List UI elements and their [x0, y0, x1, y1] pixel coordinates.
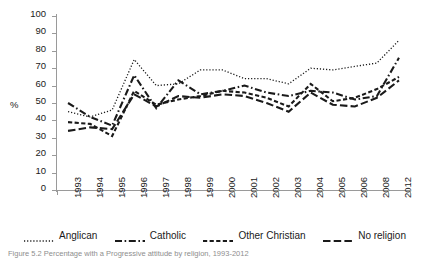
x-tick-label: 2003	[293, 177, 303, 198]
x-tick-mark	[101, 190, 102, 195]
y-tick-label: 50	[35, 96, 46, 106]
y-tick-label: 20	[35, 148, 46, 158]
x-tick-label: 2006	[359, 177, 369, 198]
chart-legend: AnglicanCatholicOther ChristianNo religi…	[24, 228, 406, 242]
legend-label: Other Christian	[238, 230, 305, 241]
x-tick-label: 1999	[205, 177, 215, 198]
legend-swatch-icon	[115, 231, 145, 239]
y-tick-label: 80	[35, 44, 46, 54]
series-line-3	[68, 80, 399, 130]
x-tick-mark	[123, 190, 124, 195]
x-tick-label: 2005	[337, 177, 347, 198]
series-line-1	[68, 58, 399, 126]
y-tick-mark	[52, 120, 57, 121]
x-tick-mark	[278, 190, 279, 195]
y-tick-mark	[52, 51, 57, 52]
legend-item-other-christian[interactable]: Other Christian	[203, 230, 305, 241]
x-tick-label: 2008	[381, 177, 391, 198]
y-tick-label: 0	[41, 183, 46, 193]
y-tick-label: 10	[35, 166, 46, 176]
legend-item-catholic[interactable]: Catholic	[115, 230, 186, 241]
y-tick-mark	[52, 138, 57, 139]
x-tick-label: 1997	[161, 177, 171, 198]
y-tick-label: 40	[35, 113, 46, 123]
x-tick-mark	[366, 190, 367, 195]
x-tick-mark	[234, 190, 235, 195]
chart-figure: % 1009080706050403020100 199319941995199…	[0, 0, 424, 259]
x-tick-mark	[388, 190, 389, 195]
y-tick-mark	[52, 155, 57, 156]
legend-swatch-icon	[203, 231, 233, 239]
x-tick-mark	[79, 190, 80, 195]
y-axis-label: %	[10, 100, 18, 110]
y-tick-mark	[52, 33, 57, 34]
y-tick-label: 90	[35, 26, 46, 36]
legend-label: Anglican	[59, 230, 97, 241]
x-tick-label: 1994	[95, 177, 105, 198]
x-tick-label: 2001	[249, 177, 259, 198]
series-lines	[0, 0, 424, 259]
y-tick-label: 30	[35, 131, 46, 141]
y-tick-mark	[52, 68, 57, 69]
x-tick-mark	[57, 190, 58, 195]
x-tick-label: 1998	[183, 177, 193, 198]
x-tick-mark	[322, 190, 323, 195]
x-tick-label: 1993	[73, 177, 83, 198]
series-line-0	[68, 40, 399, 117]
y-tick-label: 70	[35, 61, 46, 71]
x-tick-mark	[189, 190, 190, 195]
y-tick-mark	[52, 16, 57, 17]
series-line-2	[68, 77, 399, 136]
x-tick-mark	[211, 190, 212, 195]
legend-item-no-religion[interactable]: No religion	[323, 230, 406, 241]
x-tick-label: 2012	[403, 177, 413, 198]
legend-swatch-icon	[24, 231, 54, 239]
x-tick-mark	[167, 190, 168, 195]
legend-label: Catholic	[150, 230, 186, 241]
x-tick-label: 2002	[271, 177, 281, 198]
y-tick-mark	[52, 86, 57, 87]
x-tick-mark	[344, 190, 345, 195]
x-tick-mark	[410, 190, 411, 195]
x-tick-mark	[256, 190, 257, 195]
x-tick-mark	[145, 190, 146, 195]
y-tick-mark	[52, 173, 57, 174]
x-tick-label: 1996	[139, 177, 149, 198]
x-tick-label: 1995	[117, 177, 127, 198]
x-tick-mark	[300, 190, 301, 195]
y-tick-label: 100	[30, 9, 46, 19]
y-tick-label: 60	[35, 79, 46, 89]
x-tick-label: 2000	[227, 177, 237, 198]
y-tick-mark	[52, 103, 57, 104]
legend-swatch-icon	[323, 231, 353, 239]
legend-label: No religion	[358, 230, 406, 241]
legend-item-anglican[interactable]: Anglican	[24, 230, 97, 241]
x-tick-label: 2004	[315, 177, 325, 198]
figure-caption: Figure 5.2 Percentage with a Progressive…	[8, 249, 418, 258]
